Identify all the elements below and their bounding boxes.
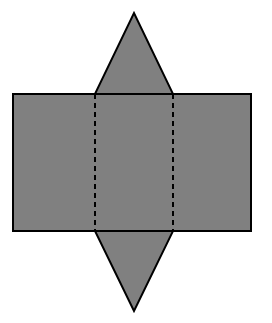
- figure-stage: [0, 0, 272, 323]
- net-diagram: [0, 0, 272, 323]
- rectangle-body-face: [13, 94, 251, 231]
